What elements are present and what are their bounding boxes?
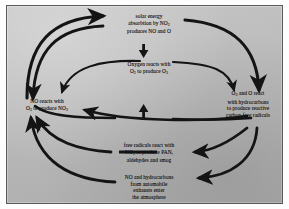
oxygen-subscript-a: 2 — [134, 70, 136, 75]
hydro-line-3: to produce reactive — [210, 105, 283, 112]
node-free-radicals-react: free radicals react with NO2 to produce … — [95, 142, 203, 164]
noreact-subscript-a: 3 — [30, 107, 32, 112]
oxygen-subscript-b: 3 — [166, 70, 168, 75]
arrow-no-reacts-to-solar-inner — [33, 26, 103, 98]
noreact-subscript-b: 2 — [66, 107, 68, 112]
hydro-line-2: with hydrocarbons — [210, 99, 283, 106]
oxygen-line-2: O2 to produce O3 — [99, 68, 199, 77]
arrow-down-solar-to-oxygen — [139, 44, 149, 58]
solar-line-3: produces NO and O — [101, 28, 197, 35]
arrow-up-free-to-oxygen — [139, 104, 149, 118]
free-subscript-a: 2 — [133, 151, 135, 156]
node-automobile-exhausts: NO and hydrocarbons from automobile exha… — [97, 174, 201, 200]
solar-line-2: absorbtion by NO2 — [101, 20, 197, 29]
hydro-line-4: carbon-free radicals — [210, 112, 283, 119]
solar-subscript: 2 — [168, 22, 170, 27]
arrow-hydrocarbons-to-automobile — [199, 128, 257, 178]
noreact-line-2: O3 to produce NO2 — [10, 105, 84, 114]
node-ozone-oxygen-react-hydrocarbons: O3 and O react with hydrocarbons to prod… — [210, 90, 283, 118]
node-oxygen-reacts: Oxygen reacts with O2 to produce O3 — [99, 61, 199, 76]
diagram-plate: solar energy absorbtion by NO2 produces … — [6, 5, 283, 204]
free-line-2: NO2 to produce PAN, — [95, 149, 203, 158]
oxygen-line-1: Oxygen reacts with — [99, 61, 199, 68]
auto-line-1: NO and hydrocarbons — [97, 174, 201, 181]
noreact-line-1: NO reacts with — [10, 98, 84, 105]
hydro-line-1: O3 and O react — [210, 90, 283, 99]
auto-line-3: exhausts enter — [97, 187, 201, 194]
hydro-subscript-a: 3 — [236, 92, 238, 97]
figure-page: solar energy absorbtion by NO2 produces … — [0, 0, 289, 209]
node-no-reacts-with-ozone: NO reacts with O3 to produce NO2 — [10, 98, 84, 113]
auto-line-2: from automobile — [97, 181, 201, 188]
free-line-1: free radicals react with — [95, 142, 203, 149]
auto-line-4: the atmosphere — [97, 194, 201, 201]
solar-line-1: solar energy — [101, 13, 197, 20]
free-line-3: aldehydes and smog — [95, 157, 203, 164]
node-solar-energy-absorption: solar energy absorbtion by NO2 produces … — [101, 13, 197, 35]
